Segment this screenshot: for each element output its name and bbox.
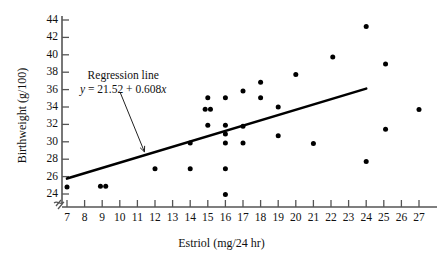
equation-x-symbol: x: [161, 83, 166, 95]
data-point: [330, 54, 335, 59]
data-point: [364, 24, 369, 29]
data-point: [258, 95, 263, 100]
y-tick-label: 28: [26, 152, 58, 164]
annotation-arrow: [120, 92, 145, 152]
data-point: [223, 141, 228, 146]
y-tick-label: 34: [26, 100, 58, 112]
data-point: [258, 80, 263, 85]
data-point: [364, 159, 369, 164]
data-point: [65, 185, 70, 190]
y-tick-label: 42: [26, 30, 58, 42]
y-tick-label: 44: [26, 13, 58, 25]
data-point: [241, 124, 246, 129]
data-point: [293, 72, 298, 77]
data-point: [188, 166, 193, 171]
y-tick-label: 40: [26, 48, 58, 60]
data-point: [208, 107, 213, 112]
equation-body: = 21.52 + 0.608: [85, 83, 161, 95]
regression-annotation: Regression line y = 21.52 + 0.608x: [80, 68, 166, 97]
axes-group: [54, 16, 437, 209]
data-point: [223, 131, 228, 136]
y-tick-label: 38: [26, 65, 58, 77]
data-point: [276, 105, 281, 110]
data-point: [311, 141, 316, 146]
annotation-label: Regression line: [80, 68, 166, 82]
data-point: [223, 166, 228, 171]
data-point: [103, 184, 108, 189]
y-tick-label: 36: [26, 83, 58, 95]
y-tick-label: 30: [26, 135, 58, 147]
data-point: [98, 184, 103, 189]
regression-line-path: [67, 89, 366, 179]
data-point: [203, 107, 208, 112]
data-point: [223, 123, 228, 128]
annotation-equation: y = 21.52 + 0.608x: [80, 82, 166, 96]
data-point: [241, 88, 246, 93]
y-tick-label: 24: [26, 187, 58, 199]
y-tick-label: 32: [26, 117, 58, 129]
data-point: [241, 141, 246, 146]
data-point: [383, 127, 388, 132]
scatter-plot-figure: Birthweight (g/100) Estriol (mg/24 hr) R…: [0, 0, 443, 261]
x-axis-ticks: [67, 200, 419, 207]
regression-line: [67, 89, 366, 179]
y-axis-ticks: [62, 20, 69, 194]
data-point: [223, 192, 228, 197]
data-point: [276, 133, 281, 138]
data-point: [188, 141, 193, 146]
data-point: [205, 95, 210, 100]
data-point: [417, 107, 422, 112]
data-point: [153, 166, 158, 171]
x-axis-title: Estriol (mg/24 hr): [0, 236, 443, 251]
data-points: [65, 24, 422, 197]
x-tick-label: 27: [405, 211, 433, 223]
data-point: [205, 123, 210, 128]
data-point: [383, 61, 388, 66]
annotation-arrow-shaft: [120, 92, 144, 152]
data-point: [223, 95, 228, 100]
y-tick-label: 26: [26, 170, 58, 182]
